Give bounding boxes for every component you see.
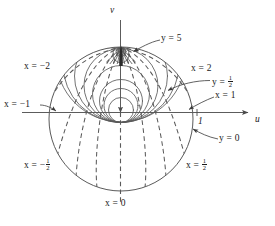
y-const-family (47, 0, 186, 130)
figure-canvas (0, 0, 275, 226)
axis-label-v: v (110, 5, 114, 15)
conformal-mapping-figure: v u 1 y = 5 x = −2 x = 2 y = 12 x = −1 x… (0, 0, 275, 226)
label-x-eq-2: x = 2 (191, 63, 212, 73)
axis-label-u: u (255, 114, 260, 124)
label-x-eq-minus-2: x = −2 (24, 61, 50, 71)
label-x-eq-1: x = 1 (215, 90, 236, 100)
fraction-one-half-left: 12 (46, 158, 51, 172)
fraction-one-half: 12 (228, 75, 233, 89)
label-x-eq-minus-half-text: x = − (24, 160, 45, 170)
label-x-eq-minus-1: x = −1 (4, 99, 30, 109)
fraction-one-half-right: 12 (202, 158, 207, 172)
label-y-eq-half-text: y = (212, 77, 228, 87)
label-y-eq-half: y = 12 (212, 75, 233, 89)
tick-label-one: 1 (198, 116, 203, 126)
label-x-eq-half: x = 12 (186, 158, 207, 172)
label-x-eq-0: x = 0 (105, 198, 126, 208)
label-x-eq-minus-half: x = −12 (24, 158, 50, 172)
label-y-eq-5: y = 5 (161, 33, 182, 43)
label-y-eq-0: y = 0 (219, 133, 240, 143)
label-x-eq-half-text: x = (186, 160, 202, 170)
